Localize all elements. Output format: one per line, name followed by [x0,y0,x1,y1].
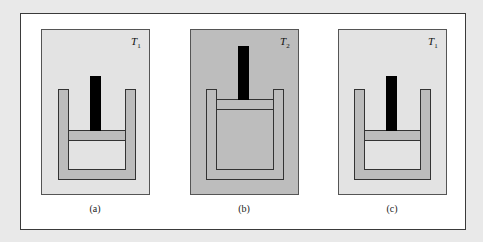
piston [364,130,421,141]
temperature-label-b: T2 [280,35,290,50]
temperature-label-a: T1 [131,35,141,50]
temperature-label-c: T1 [428,35,438,50]
panel-a: T1 [41,29,150,195]
piston [216,99,274,110]
piston-rod [238,46,249,100]
panel-b: T2 [190,29,299,195]
caption-c: (c) [372,203,412,214]
caption-b: (b) [224,203,264,214]
piston-rod [90,76,101,131]
piston [68,130,126,141]
caption-a: (a) [75,203,115,214]
piston-rod [386,76,397,131]
panel-c: T1 [338,29,447,195]
